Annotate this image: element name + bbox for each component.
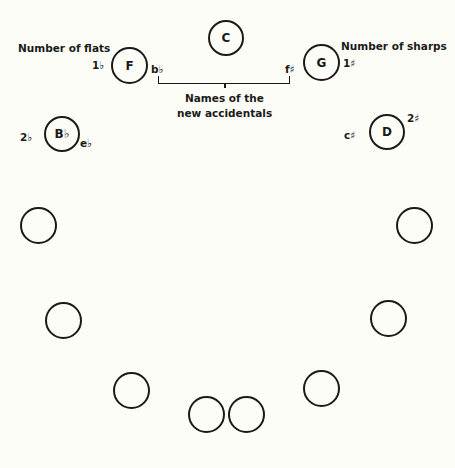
empty-key-circle: [188, 396, 225, 433]
key-circle-g: G: [303, 44, 340, 81]
new-accidental-bb: b♭: [151, 62, 163, 76]
accidentals-caption-line1: Names of the: [185, 91, 264, 105]
key-label-g: G: [317, 56, 327, 70]
empty-key-circle: [370, 300, 407, 337]
empty-key-circle: [113, 372, 150, 409]
sharp-count-g: 1♯: [343, 56, 355, 70]
accidentals-bracket: [158, 76, 290, 84]
key-circle-bb: B♭: [44, 116, 80, 152]
empty-key-circle: [228, 396, 265, 433]
empty-key-circle: [20, 207, 57, 244]
empty-key-circle: [303, 370, 340, 407]
flats-caption: Number of flats: [18, 41, 110, 55]
bracket-center-tick: [224, 84, 226, 88]
flat-count-bb: 2♭: [20, 130, 32, 144]
new-accidental-eb: e♭: [80, 136, 92, 150]
empty-key-circle: [396, 207, 433, 244]
key-label-c: C: [222, 31, 231, 45]
key-label-bb: B♭: [55, 127, 70, 141]
key-label-f: F: [125, 59, 133, 73]
new-accidental-cs: c♯: [344, 128, 355, 142]
empty-key-circle: [45, 302, 82, 339]
key-label-d: D: [382, 125, 392, 139]
new-accidental-fs: f♯: [285, 62, 295, 76]
accidentals-caption-line2: new accidentals: [177, 106, 272, 120]
sharp-count-d: 2♯: [407, 111, 419, 125]
key-circle-c: C: [208, 20, 244, 56]
flat-count-f: 1♭: [92, 58, 104, 72]
sharps-caption: Number of sharps: [341, 39, 447, 53]
key-circle-d: D: [369, 114, 405, 150]
key-circle-f: F: [111, 47, 148, 84]
